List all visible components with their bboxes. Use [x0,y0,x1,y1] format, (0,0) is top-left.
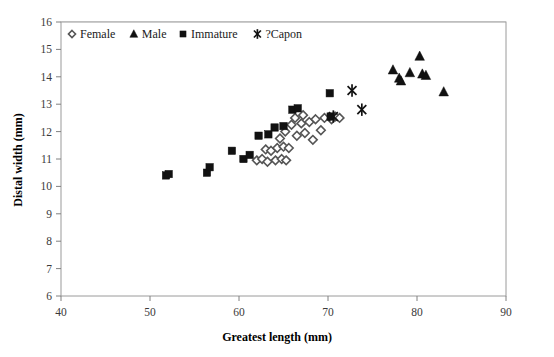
legend-label: Immature [191,27,238,41]
y-tick-label: 6 [46,290,52,302]
point-marker [255,132,262,139]
point-marker [206,164,213,171]
legend-label: Male [142,27,167,41]
x-axis-title: Greatest length (mm) [222,330,332,344]
x-tick-label: 70 [322,306,334,318]
point-marker [265,131,272,138]
point-marker [228,147,235,154]
point-marker [280,122,287,129]
y-tick-label: 14 [41,71,53,83]
y-axis-title: Distal width (mm) [11,113,25,206]
y-tick-label: 7 [46,263,52,275]
chart-canvas: 678910111213141516 405060708090 FemaleMa… [0,0,554,357]
legend-label: Female [80,27,115,41]
x-tick-label: 60 [233,306,245,318]
point-marker [165,170,172,177]
point-marker [326,90,333,97]
y-tick-label: 16 [41,16,53,28]
scatter-chart: 678910111213141516 405060708090 FemaleMa… [0,0,554,357]
x-tick-label: 80 [411,306,423,318]
y-tick-label: 8 [46,235,52,247]
y-tick-label: 11 [41,153,52,165]
x-tick-labels: 405060708090 [55,306,512,318]
y-tick-label: 9 [46,208,52,220]
y-tick-label: 10 [41,180,53,192]
y-tick-labels: 678910111213141516 [41,16,53,302]
point-marker [246,151,253,158]
y-tick-label: 12 [41,126,53,138]
point-marker [294,105,301,112]
square-icon [180,31,186,37]
y-tick-label: 13 [41,98,53,110]
x-tick-label: 40 [55,306,67,318]
x-tick-label: 90 [500,306,512,318]
x-tick-label: 50 [144,306,156,318]
y-tick-label: 15 [41,43,53,55]
legend-label: ?Capon [265,27,302,41]
point-marker [271,124,278,131]
